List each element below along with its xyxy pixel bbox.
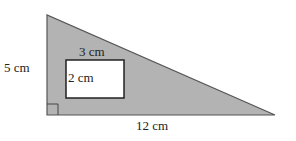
rect-height-label: 2 cm (68, 70, 94, 86)
base-label: 12 cm (136, 118, 168, 134)
rect-width-label: 3 cm (79, 44, 105, 60)
height-label: 5 cm (4, 60, 30, 76)
